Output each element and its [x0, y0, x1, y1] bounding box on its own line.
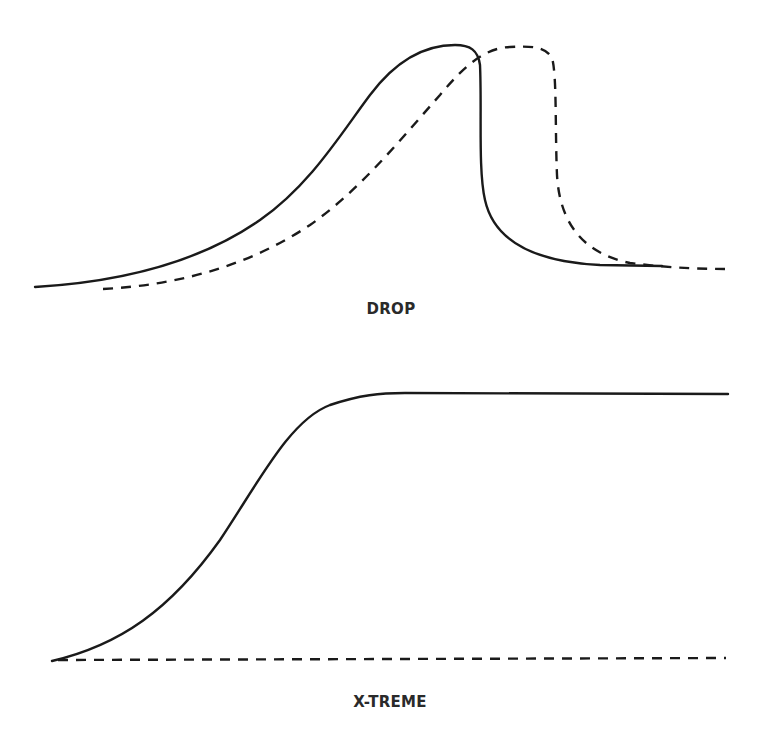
drop-chart [0, 0, 768, 749]
xtreme-dashed-curve [58, 658, 726, 660]
xtreme-chart-label: X-TREME [353, 693, 427, 711]
drop-solid-curve [35, 45, 662, 287]
xtreme-solid-curve [52, 393, 728, 661]
drop-chart-label: DROP [367, 300, 416, 318]
